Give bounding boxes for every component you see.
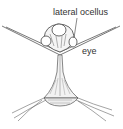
stalk [44, 55, 78, 98]
base-structure [44, 98, 78, 106]
diagram-canvas: lateral ocellus eye [0, 0, 123, 129]
ocellus-leader-line [74, 18, 77, 38]
label-eye: eye [82, 46, 97, 56]
insect-head-drawing [0, 0, 123, 129]
label-lateral-ocellus: lateral ocellus [53, 7, 108, 17]
